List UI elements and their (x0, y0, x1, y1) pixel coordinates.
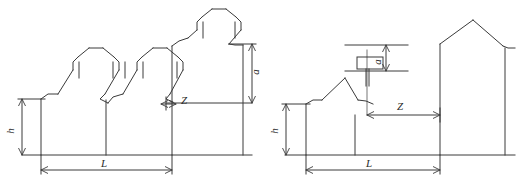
label-h-left: h (4, 128, 16, 134)
technical-diagram: h L a Z h L a Z (0, 0, 530, 184)
dimension-a-right (345, 45, 408, 71)
roof-upper-tall-left (202, 9, 212, 17)
label-h-right: h (268, 128, 280, 134)
roof-slope-right-1 (105, 70, 119, 94)
label-Z-right: Z (397, 100, 404, 112)
roof-upper-right-1 (103, 48, 114, 57)
dimension-z-right (367, 108, 440, 122)
eave-step-left-2 (108, 94, 123, 103)
roof-step-right-1 (114, 57, 119, 70)
roof-slope-tallright-right (473, 20, 503, 46)
dimension-z-left (161, 97, 252, 110)
label-a-left: a (249, 69, 261, 75)
roof-step-left-1 (73, 57, 78, 70)
label-L-right: L (365, 157, 372, 169)
left-panel-group (18, 9, 256, 174)
roof-slope-house-left (322, 78, 345, 100)
label-a-right: a (371, 59, 383, 65)
eave-step-house-right (358, 100, 373, 104)
right-panel-group (282, 20, 515, 174)
roof-slope-tallright-left (440, 20, 473, 44)
roof-upper-tall-right (226, 9, 236, 17)
label-Z-left: Z (181, 94, 188, 106)
roof-slope-house-right (345, 78, 358, 100)
roof-slope-left-1 (58, 70, 73, 94)
roof-slope-tall-left (188, 30, 197, 38)
eave-step-house-left (306, 100, 322, 104)
valley-notch-1 (100, 94, 108, 103)
diagram-canvas: h L a Z h L a Z (0, 0, 530, 184)
roof-step-tall-left (197, 17, 202, 30)
valley-1 (100, 94, 108, 155)
low-gable-house-right (306, 78, 373, 155)
eave-step-tall-left (172, 38, 188, 46)
roof-step-tall-right (236, 17, 241, 30)
dimension-L-right (306, 155, 440, 174)
low-gable-building-1 (41, 48, 119, 155)
tall-gable-building-right (440, 20, 515, 155)
tall-gable-building-left (172, 9, 243, 155)
eave-step-left-1 (41, 94, 58, 99)
roof-step-right-2 (178, 57, 183, 70)
label-L-left: L (100, 157, 107, 169)
roof-step-left-2 (137, 57, 142, 70)
roof-upper-left-1 (78, 48, 89, 57)
roof-upper-left-2 (142, 48, 153, 57)
